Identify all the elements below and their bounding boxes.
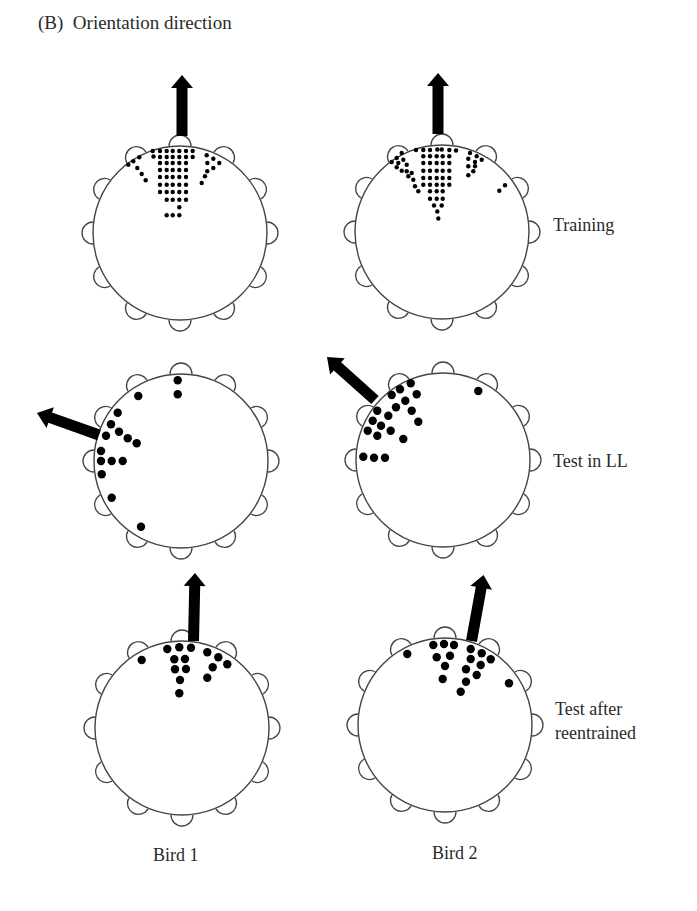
orientation-dot [421, 183, 425, 187]
orientation-dot [421, 154, 425, 158]
orientation-dot [413, 390, 421, 398]
orientation-dot [435, 183, 439, 187]
orientation-dot [177, 175, 181, 179]
orientation-dot [435, 169, 439, 173]
orientation-dot [471, 169, 475, 173]
orientation-dot [381, 454, 389, 462]
orientation-dot [436, 216, 440, 220]
orientation-dot [203, 174, 207, 178]
orientation-dot [477, 661, 485, 669]
orientation-dot [421, 176, 425, 180]
perch-icon [169, 320, 191, 331]
orientation-dot [151, 154, 155, 158]
orientation-dot [421, 148, 425, 152]
orientation-dot [435, 197, 439, 201]
orientation-dot [435, 176, 439, 180]
orientation-dot [428, 176, 432, 180]
perch-icon [267, 222, 278, 244]
perch-icon [82, 222, 93, 244]
arena-circle [93, 146, 267, 320]
arena-panel-1 [82, 75, 278, 331]
orientation-dot [403, 650, 411, 658]
orientation-dot [176, 676, 184, 684]
orientation-dot [214, 653, 222, 661]
orientation-dot [369, 417, 377, 425]
orientation-dot [407, 379, 415, 387]
orientation-dot [217, 161, 221, 165]
orientation-dot [177, 183, 181, 187]
orientation-dot [473, 160, 477, 164]
perch-icon [83, 450, 94, 472]
perch-icon [170, 548, 192, 559]
orientation-dot [182, 665, 190, 673]
orientation-dot [428, 169, 432, 173]
orientation-dot [441, 189, 445, 193]
orientation-dot [102, 432, 110, 440]
perch-icon [432, 362, 454, 373]
perch-icon [170, 363, 192, 374]
orientation-dot [108, 457, 116, 465]
orientation-dot [177, 205, 181, 209]
orientation-dot [97, 447, 105, 455]
orientation-dot [144, 178, 148, 182]
orientation-dot [454, 148, 458, 152]
orientation-dot [441, 197, 445, 201]
perch-icon [345, 449, 356, 471]
orientation-dot [177, 149, 181, 153]
orientation-dot [114, 409, 122, 417]
orientation-dot [171, 149, 175, 153]
orientation-dot [209, 663, 217, 671]
orientation-dot [126, 163, 130, 167]
orientation-dot [414, 148, 418, 152]
orientation-dot [177, 161, 181, 165]
perch-icon [530, 449, 541, 471]
orientation-dot [211, 166, 215, 170]
mean-direction-arrow-icon [461, 573, 495, 643]
orientation-dot [171, 198, 175, 202]
orientation-dot [478, 649, 486, 657]
orientation-dot [401, 158, 405, 162]
orientation-dot [441, 154, 445, 158]
orientation-dot [171, 190, 175, 194]
orientation-dot [395, 156, 399, 160]
orientation-dot [428, 197, 432, 201]
orientation-dot [447, 183, 451, 187]
orientation-dot [428, 189, 432, 193]
orientation-dot [390, 160, 394, 164]
orientation-dot [158, 190, 162, 194]
orientation-dot [165, 213, 169, 217]
orientation-dot [205, 153, 209, 157]
orientation-dot [200, 181, 204, 185]
orientation-dot [462, 665, 470, 673]
orientation-dot [435, 161, 439, 165]
orientation-dot [165, 190, 169, 194]
orientation-dot [97, 457, 105, 465]
row-label-test-after: Test after [555, 698, 622, 720]
orientation-dot [429, 641, 437, 649]
orientation-dot [441, 183, 445, 187]
orientation-dot [384, 412, 392, 420]
orientation-dot [171, 665, 179, 673]
orientation-dot [475, 154, 479, 158]
orientation-dot [191, 155, 195, 159]
orientation-dot [137, 523, 145, 531]
orientation-dot [447, 148, 451, 152]
arena-circle [95, 641, 269, 815]
column-label-bird-2: Bird 2 [432, 843, 478, 864]
orientation-dot [165, 155, 169, 159]
orientation-dot [184, 183, 188, 187]
orientation-dot [184, 155, 188, 159]
orientation-dot [411, 178, 415, 182]
arena-panel-2 [344, 73, 540, 330]
orientation-dot [165, 168, 169, 172]
row-label-training: Training [553, 214, 614, 236]
arena-panel-5 [84, 573, 280, 826]
orientation-dot [119, 457, 127, 465]
orientation-dot [373, 432, 381, 440]
orientation-dot [400, 169, 404, 173]
orientation-dot [158, 168, 162, 172]
orientation-dot [165, 198, 169, 202]
orientation-dot [107, 420, 115, 428]
orientation-dot [473, 671, 481, 679]
orientation-dot [184, 190, 188, 194]
